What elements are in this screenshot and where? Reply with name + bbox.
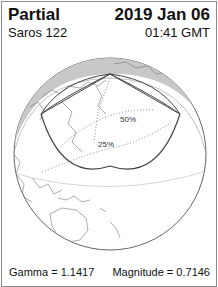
globe-map: 50% 25%	[2, 2, 218, 287]
eclipse-map-frame: 50% 25% Partial 2019 Jan 06 Saros 122 01…	[1, 1, 217, 287]
eclipse-time: 01:41 GMT	[145, 25, 210, 40]
magnitude-value: Magnitude = 0.7146	[112, 266, 210, 278]
contour-label-25: 25%	[98, 140, 114, 149]
eclipse-type: Partial	[8, 5, 60, 25]
saros-number: Saros 122	[8, 25, 67, 40]
eclipse-date: 2019 Jan 06	[115, 5, 210, 25]
contour-label-50: 50%	[120, 115, 136, 124]
gamma-value: Gamma = 1.1417	[9, 266, 94, 278]
